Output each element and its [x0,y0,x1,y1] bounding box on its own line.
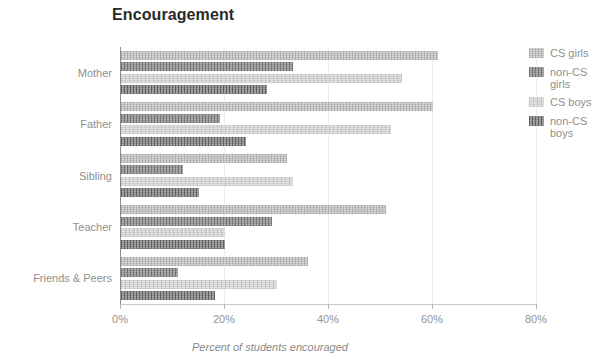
legend-swatch [529,116,544,126]
bar [121,240,225,249]
legend-swatch [529,97,544,107]
x-tick-mark [224,304,225,309]
plot-area: 0%20%40%60%80% [120,47,536,304]
x-tick-mark [432,304,433,309]
bar [121,165,183,174]
bar [121,291,215,300]
bar [121,177,293,186]
category-label: Sibling [0,170,112,182]
x-tick-label: 0% [112,313,128,325]
bar [121,188,199,197]
category-label: Teacher [0,221,112,233]
chart-legend: CS girlsnon-CS girlsCS boysnon-CS boys [529,47,615,145]
legend-label: CS boys [550,96,615,108]
gridline [432,47,433,304]
bar [121,257,308,266]
category-label: Friends & Peers [0,272,112,284]
x-tick-mark [536,304,537,309]
bar [121,228,225,237]
legend-item: CS girls [529,47,615,60]
bar [121,62,293,71]
category-label: Mother [0,67,112,79]
bar [121,268,178,277]
bar [121,280,277,289]
legend-item: CS boys [529,96,615,109]
x-axis-title: Percent of students encouraged [0,341,540,353]
category-label: Father [0,118,112,130]
bar [121,102,433,111]
bar [121,74,402,83]
legend-label: CS girls [550,47,615,59]
bar [121,205,386,214]
legend-label: non-CS girls [550,66,615,90]
gridline [328,47,329,304]
legend-swatch [529,67,544,77]
x-tick-label: 60% [421,313,443,325]
bar [121,125,391,134]
bar [121,217,272,226]
bar [121,114,220,123]
legend-label: non-CS boys [550,115,615,139]
bar [121,51,438,60]
x-tick-label: 20% [213,313,235,325]
bar [121,137,246,146]
legend-item: non-CS girls [529,66,615,90]
legend-swatch [529,48,544,58]
legend-item: non-CS boys [529,115,615,139]
x-tick-label: 80% [525,313,547,325]
bar [121,154,287,163]
chart-title: Encouragement [112,6,234,24]
x-tick-mark [328,304,329,309]
bar [121,85,267,94]
x-tick-label: 40% [317,313,339,325]
x-tick-mark [120,304,121,309]
